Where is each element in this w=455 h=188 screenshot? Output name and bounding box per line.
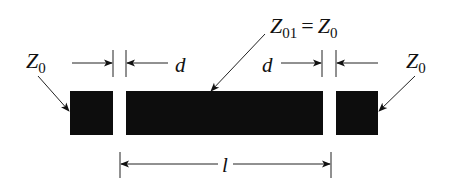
left-feed-line <box>70 91 113 135</box>
left-impedance-callout: Z0 <box>26 48 69 111</box>
right-impedance-callout: Z0 <box>379 48 426 111</box>
resonator-section <box>126 91 323 135</box>
resonator-impedance-label: Z01=Z0 <box>270 13 337 41</box>
gap-label-left: d <box>175 53 186 77</box>
length-label: l <box>222 153 228 177</box>
right-feed-line <box>336 91 378 135</box>
length-dimension: l <box>120 152 331 178</box>
left-gap-dimension: d <box>72 50 186 77</box>
gap-coupled-resonator-diagram: d d l Z0 Z0 Z01=Z0 <box>0 0 455 188</box>
left-impedance-label: Z0 <box>26 48 46 76</box>
gap-label-right: d <box>262 53 273 77</box>
right-impedance-label: Z0 <box>406 48 426 76</box>
resonator-impedance-callout: Z01=Z0 <box>211 13 337 91</box>
right-gap-dimension: d <box>262 50 378 77</box>
